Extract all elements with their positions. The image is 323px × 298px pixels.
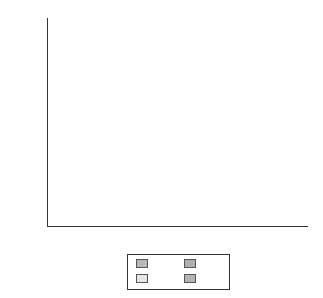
legend-item-cv-ii	[184, 259, 201, 268]
legend	[127, 254, 230, 290]
legend-swatch	[136, 274, 148, 283]
y-axis	[47, 18, 48, 227]
legend-swatch	[184, 259, 196, 268]
legend-item-cv-i	[184, 274, 201, 283]
legend-item-cv-iii	[136, 274, 153, 283]
legend-item-cv-iv	[136, 259, 153, 268]
x-axis	[47, 226, 308, 227]
legend-swatch	[184, 274, 196, 283]
legend-swatch	[136, 259, 148, 268]
